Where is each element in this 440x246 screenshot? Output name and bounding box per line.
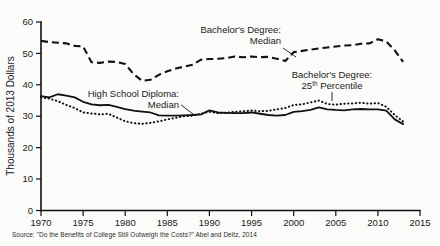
y-tick-label: 30 bbox=[22, 110, 33, 121]
y-tick-label: 10 bbox=[22, 173, 33, 184]
annotation-percentile-number: 25 bbox=[302, 80, 313, 91]
x-tick-label: 1985 bbox=[157, 217, 178, 228]
annotation-line-1: Bachelor's Degree: bbox=[292, 69, 373, 80]
annotation-hs-diploma-median: High School Diploma: Median bbox=[88, 88, 179, 110]
x-tick-label: 2000 bbox=[283, 217, 304, 228]
x-tick-label: 1975 bbox=[73, 217, 94, 228]
y-tick-label: 20 bbox=[22, 142, 33, 153]
leader-line-hs-diploma-median bbox=[181, 105, 193, 114]
x-tick-label: 1990 bbox=[199, 217, 220, 228]
y-axis-tick-labels: 0 10 20 30 40 50 60 bbox=[22, 16, 33, 216]
x-tick-label: 2015 bbox=[409, 217, 430, 228]
annotation-bachelors-p25: Bachelor's Degree: 25th Percentile bbox=[292, 69, 373, 91]
y-tick-label: 50 bbox=[22, 48, 33, 59]
x-tick-label: 1980 bbox=[115, 217, 136, 228]
x-tick-label: 2010 bbox=[367, 217, 388, 228]
y-tick-label: 60 bbox=[22, 16, 33, 27]
source-note: Source: "Do the Benefits of College Stil… bbox=[12, 231, 257, 238]
annotation-line-2: 25th Percentile bbox=[302, 80, 363, 91]
chart-figure: 0 10 20 30 40 50 60 1970 1975 1980 198 bbox=[0, 0, 440, 246]
y-axis-title: Thousands of 2013 Dollars bbox=[5, 56, 16, 176]
x-tick-label: 1970 bbox=[30, 217, 51, 228]
annotation-line-1: Bachelor's Degree: bbox=[201, 24, 282, 35]
annotation-percentile-word: Percentile bbox=[318, 80, 363, 91]
annotation-line-2: Median bbox=[148, 99, 179, 110]
x-axis-ticks bbox=[41, 211, 420, 217]
y-tick-label: 0 bbox=[28, 205, 33, 216]
annotation-bachelors-median: Bachelor's Degree: Median bbox=[201, 24, 282, 46]
line-chart-canvas: 0 10 20 30 40 50 60 1970 1975 1980 198 bbox=[0, 0, 440, 246]
annotation-line-1: High School Diploma: bbox=[88, 88, 179, 99]
y-tick-label: 40 bbox=[22, 79, 33, 90]
x-tick-label: 1995 bbox=[241, 217, 262, 228]
annotation-line-2: Median bbox=[250, 35, 281, 46]
x-tick-label: 2005 bbox=[325, 217, 346, 228]
x-axis-tick-labels: 1970 1975 1980 1985 1990 1995 2000 2005 … bbox=[30, 217, 430, 228]
